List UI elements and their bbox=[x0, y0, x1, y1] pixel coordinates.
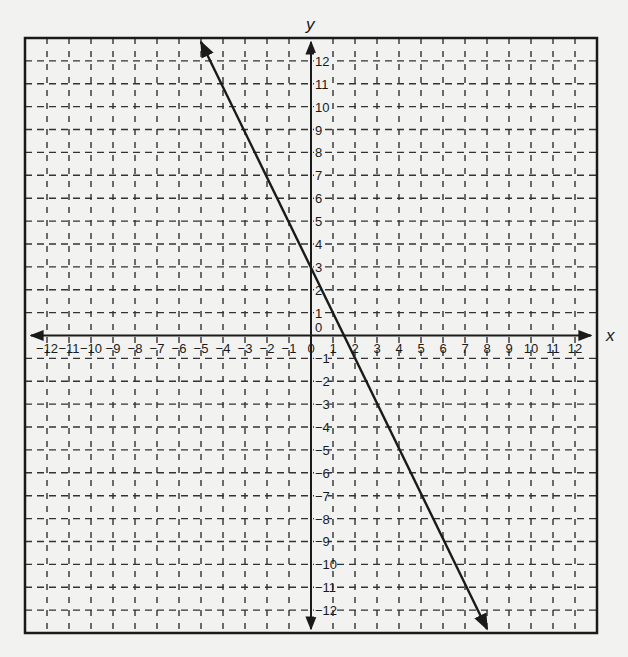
x-tick-label: −3 bbox=[238, 341, 253, 356]
y-tick-label: 11 bbox=[315, 77, 329, 92]
coordinate-plane: −12−11−10−9−8−7−6−5−4−3−2−10123456789101… bbox=[0, 0, 628, 657]
x-tick-label: −10 bbox=[80, 341, 102, 356]
y-tick-label: 7 bbox=[315, 168, 322, 183]
x-tick-label: 1 bbox=[329, 341, 336, 356]
y-tick-label: 12 bbox=[315, 54, 329, 69]
x-tick-label: −12 bbox=[36, 341, 58, 356]
x-tick-label: −4 bbox=[216, 341, 231, 356]
x-tick-label: 3 bbox=[373, 341, 380, 356]
y-tick-label: −12 bbox=[315, 603, 337, 618]
x-axis-label: x bbox=[605, 326, 615, 345]
y-tick-label: −9 bbox=[315, 534, 330, 549]
x-tick-label: −9 bbox=[106, 341, 121, 356]
y-tick-label: −2 bbox=[315, 374, 330, 389]
x-tick-label: 7 bbox=[461, 341, 468, 356]
origin-label: 0 bbox=[315, 320, 322, 335]
y-tick-label: −7 bbox=[315, 489, 330, 504]
y-tick-label: −6 bbox=[315, 466, 330, 481]
x-tick-label: −7 bbox=[150, 341, 165, 356]
y-tick-label: −1 bbox=[315, 351, 330, 366]
y-axis-label: y bbox=[305, 15, 316, 34]
y-tick-label: 1 bbox=[315, 306, 322, 321]
x-tick-label: 10 bbox=[524, 341, 538, 356]
x-tick-label: −11 bbox=[58, 341, 79, 356]
y-tick-label: 8 bbox=[315, 145, 322, 160]
x-tick-label: 8 bbox=[483, 341, 490, 356]
x-tick-label: 12 bbox=[568, 341, 582, 356]
y-tick-label: 4 bbox=[315, 237, 322, 252]
x-tick-label: 6 bbox=[439, 341, 446, 356]
y-tick-label: 9 bbox=[315, 123, 322, 138]
y-tick-label: −5 bbox=[315, 443, 330, 458]
x-tick-label: 9 bbox=[505, 341, 512, 356]
y-tick-label: 6 bbox=[315, 191, 322, 206]
y-tick-label: −3 bbox=[315, 397, 330, 412]
y-tick-label: −8 bbox=[315, 512, 330, 527]
x-tick-label: 4 bbox=[395, 341, 402, 356]
x-tick-label: −2 bbox=[260, 341, 275, 356]
x-tick-label: −6 bbox=[172, 341, 187, 356]
x-tick-label: −5 bbox=[194, 341, 209, 356]
x-tick-label: −8 bbox=[128, 341, 143, 356]
y-tick-label: 5 bbox=[315, 214, 322, 229]
y-tick-label: 3 bbox=[315, 260, 322, 275]
y-tick-label: −11 bbox=[315, 580, 336, 595]
x-tick-label: 11 bbox=[546, 341, 560, 356]
x-tick-label: −1 bbox=[282, 341, 297, 356]
y-tick-label: 10 bbox=[315, 100, 329, 115]
x-tick-label: 0 bbox=[307, 341, 314, 356]
y-tick-label: −4 bbox=[315, 420, 330, 435]
y-tick-label: −10 bbox=[315, 557, 337, 572]
x-tick-label: 5 bbox=[417, 341, 424, 356]
